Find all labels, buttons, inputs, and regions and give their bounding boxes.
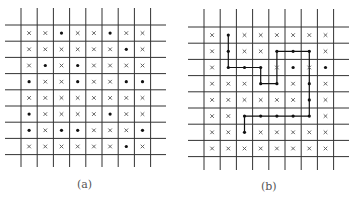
empty-site-cross-icon	[92, 80, 96, 84]
empty-site-cross-icon	[259, 33, 263, 37]
empty-site-cross-icon	[125, 129, 129, 133]
occupied-site-dot	[292, 50, 295, 53]
empty-site-cross-icon	[76, 112, 80, 116]
empty-site-cross-icon	[227, 98, 231, 102]
empty-site-cross-icon	[44, 31, 48, 35]
empty-site-cross-icon	[291, 98, 295, 102]
occupied-site-dot	[259, 82, 262, 85]
empty-site-cross-icon	[324, 82, 328, 86]
empty-site-cross-icon	[275, 131, 279, 135]
empty-site-cross-icon	[210, 147, 214, 151]
empty-site-cross-icon	[44, 129, 48, 133]
occupied-site-dot	[109, 31, 112, 34]
empty-site-cross-icon	[92, 64, 96, 68]
empty-site-cross-icon	[60, 112, 64, 116]
empty-site-cross-icon	[125, 64, 129, 68]
empty-site-cross-icon	[141, 31, 145, 35]
occupied-site-dot	[44, 64, 47, 67]
occupied-site-dot	[243, 115, 246, 118]
empty-site-cross-icon	[243, 147, 247, 151]
occupied-site-dot	[259, 115, 262, 118]
empty-site-cross-icon	[275, 33, 279, 37]
empty-site-cross-icon	[141, 96, 145, 100]
empty-site-cross-icon	[308, 131, 312, 135]
empty-site-cross-icon	[324, 131, 328, 135]
empty-site-cross-icon	[44, 96, 48, 100]
empty-site-cross-icon	[259, 98, 263, 102]
empty-site-cross-icon	[108, 80, 112, 84]
occupied-site-dot	[109, 113, 112, 116]
empty-site-cross-icon	[210, 114, 214, 118]
empty-site-cross-icon	[92, 96, 96, 100]
empty-site-cross-icon	[27, 96, 31, 100]
occupied-site-dot	[141, 129, 144, 132]
occupied-site-dot	[308, 98, 311, 101]
empty-site-cross-icon	[210, 33, 214, 37]
occupied-site-dot	[275, 115, 278, 118]
empty-site-cross-icon	[324, 114, 328, 118]
empty-site-cross-icon	[125, 96, 129, 100]
occupied-site-dot	[76, 64, 79, 67]
empty-site-cross-icon	[27, 64, 31, 68]
occupied-site-dot	[125, 145, 128, 148]
empty-site-cross-icon	[141, 112, 145, 116]
occupied-site-dot	[125, 48, 128, 51]
empty-site-cross-icon	[76, 31, 80, 35]
empty-site-cross-icon	[92, 129, 96, 133]
empty-site-cross-icon	[44, 145, 48, 149]
empty-site-cross-icon	[243, 98, 247, 102]
panel-b-lattice	[188, 9, 349, 170]
occupied-site-dot	[292, 115, 295, 118]
empty-site-cross-icon	[27, 145, 31, 149]
occupied-site-dot	[227, 50, 230, 53]
occupied-site-dot	[28, 113, 31, 116]
empty-site-cross-icon	[92, 145, 96, 149]
empty-site-cross-icon	[227, 147, 231, 151]
empty-site-cross-icon	[141, 64, 145, 68]
empty-site-cross-icon	[308, 33, 312, 37]
occupied-site-dot	[60, 31, 63, 34]
empty-site-cross-icon	[27, 48, 31, 52]
empty-site-cross-icon	[141, 48, 145, 52]
empty-site-cross-icon	[291, 82, 295, 86]
empty-site-cross-icon	[210, 131, 214, 135]
occupied-site-dot	[28, 80, 31, 83]
caption-b: (b)	[261, 180, 277, 193]
empty-site-cross-icon	[125, 31, 129, 35]
empty-site-cross-icon	[275, 98, 279, 102]
occupied-site-dot	[141, 80, 144, 83]
empty-site-cross-icon	[108, 129, 112, 133]
empty-site-cross-icon	[60, 80, 64, 84]
empty-site-cross-icon	[92, 112, 96, 116]
empty-site-cross-icon	[227, 131, 231, 135]
empty-site-cross-icon	[291, 131, 295, 135]
empty-site-cross-icon	[243, 50, 247, 54]
empty-site-cross-icon	[60, 64, 64, 68]
empty-site-cross-icon	[210, 98, 214, 102]
occupied-site-dot	[308, 50, 311, 53]
empty-site-cross-icon	[108, 48, 112, 52]
panel-a-lattice	[5, 8, 166, 167]
empty-site-cross-icon	[76, 145, 80, 149]
empty-site-cross-icon	[125, 112, 129, 116]
empty-site-cross-icon	[76, 48, 80, 52]
empty-site-cross-icon	[108, 64, 112, 68]
occupied-site-dot	[243, 66, 246, 69]
empty-site-cross-icon	[108, 96, 112, 100]
empty-site-cross-icon	[44, 80, 48, 84]
empty-site-cross-icon	[227, 82, 231, 86]
empty-site-cross-icon	[291, 147, 295, 151]
empty-site-cross-icon	[210, 50, 214, 54]
empty-site-cross-icon	[324, 33, 328, 37]
empty-site-cross-icon	[275, 147, 279, 151]
empty-site-cross-icon	[259, 50, 263, 54]
occupied-site-dot	[227, 34, 230, 37]
empty-site-cross-icon	[44, 112, 48, 116]
empty-site-cross-icon	[60, 48, 64, 52]
occupied-site-dot	[76, 129, 79, 132]
empty-site-cross-icon	[324, 50, 328, 54]
empty-site-cross-icon	[108, 145, 112, 149]
empty-site-cross-icon	[92, 48, 96, 52]
lattice-figure	[0, 0, 355, 205]
empty-site-cross-icon	[92, 31, 96, 35]
